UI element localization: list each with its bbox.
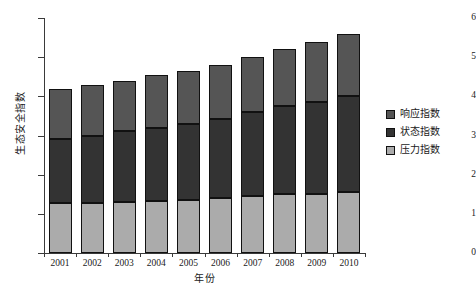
bar-group[interactable] (81, 85, 104, 253)
bar-group[interactable] (305, 42, 328, 254)
y-tick-label: 5 (446, 52, 476, 62)
x-axis-title: 年份 (44, 274, 365, 284)
x-tick-mark (44, 253, 45, 257)
x-tick-label: 2004 (140, 258, 172, 269)
x-tick-label: 2003 (108, 258, 140, 269)
x-tick-mark (333, 253, 334, 257)
bar-segment-response[interactable] (241, 57, 264, 112)
bar-group[interactable] (241, 57, 264, 253)
bar-segment-pressure[interactable] (337, 192, 360, 253)
bar-segment-state[interactable] (81, 136, 104, 203)
y-tick-mark (38, 57, 44, 58)
bar-segment-state[interactable] (113, 131, 136, 202)
bar-segment-state[interactable] (177, 124, 200, 200)
bar-segment-state[interactable] (49, 139, 72, 203)
x-tick-label: 2001 (44, 258, 76, 269)
bar-segment-response[interactable] (209, 65, 232, 119)
bar-segment-state[interactable] (241, 112, 264, 196)
x-tick-mark (172, 253, 173, 257)
stacked-bar-chart: 0123456 20012002200320042005200620072008… (0, 0, 476, 294)
bar-segment-response[interactable] (81, 85, 104, 136)
bar-segment-pressure[interactable] (209, 198, 232, 253)
x-tick-mark (269, 253, 270, 257)
bar-group[interactable] (337, 34, 360, 253)
bar-segment-response[interactable] (177, 71, 200, 124)
bar-group[interactable] (209, 65, 232, 253)
bar-segment-pressure[interactable] (177, 200, 200, 253)
bar-segment-pressure[interactable] (273, 194, 296, 253)
y-tick-label: 1 (446, 209, 476, 219)
y-tick-mark (38, 96, 44, 97)
legend-label: 状态指数 (400, 127, 440, 137)
bar-segment-response[interactable] (49, 89, 72, 140)
bar-segment-pressure[interactable] (49, 203, 72, 253)
x-tick-label: 2005 (172, 258, 204, 269)
bar-group[interactable] (145, 75, 168, 253)
bar-segment-pressure[interactable] (241, 196, 264, 253)
bar-segment-state[interactable] (209, 119, 232, 198)
legend-item[interactable]: 状态指数 (386, 126, 472, 138)
legend-label: 响应指数 (400, 109, 440, 119)
x-tick-mark (108, 253, 109, 257)
bar-segment-state[interactable] (305, 102, 328, 194)
x-tick-mark (140, 253, 141, 257)
legend: 响应指数状态指数压力指数 (386, 108, 472, 162)
bar-segment-state[interactable] (273, 106, 296, 194)
x-tick-mark (365, 253, 366, 257)
x-tick-mark (76, 253, 77, 257)
bar-segment-pressure[interactable] (145, 201, 168, 253)
y-tick-label: 4 (446, 91, 476, 101)
legend-swatch-icon (386, 110, 395, 119)
bar-segment-response[interactable] (305, 42, 328, 103)
x-tick-label: 2007 (237, 258, 269, 269)
y-tick-mark (38, 214, 44, 215)
bar-segment-state[interactable] (337, 96, 360, 192)
bar-segment-pressure[interactable] (305, 194, 328, 253)
x-tick-label: 2010 (333, 258, 365, 269)
bar-segment-response[interactable] (337, 34, 360, 97)
bar-segment-response[interactable] (113, 81, 136, 131)
bar-segment-state[interactable] (145, 128, 168, 202)
x-tick-mark (237, 253, 238, 257)
bar-group[interactable] (177, 71, 200, 253)
bar-segment-response[interactable] (145, 75, 168, 128)
bar-segment-response[interactable] (273, 49, 296, 106)
bar-group[interactable] (273, 49, 296, 253)
y-axis-title: 生态安全指数 (16, 68, 26, 178)
x-tick-label: 2009 (301, 258, 333, 269)
bar-group[interactable] (49, 89, 72, 254)
y-tick-mark (38, 136, 44, 137)
bar-group[interactable] (113, 81, 136, 253)
x-tick-mark (301, 253, 302, 257)
x-tick-label: 2008 (269, 258, 301, 269)
x-tick-label: 2002 (76, 258, 108, 269)
bar-segment-pressure[interactable] (81, 203, 104, 253)
x-tick-mark (205, 253, 206, 257)
y-tick-label: 6 (446, 13, 476, 23)
legend-item[interactable]: 压力指数 (386, 144, 472, 156)
y-tick-mark (38, 175, 44, 176)
y-tick-mark (38, 18, 44, 19)
legend-swatch-icon (386, 128, 395, 137)
y-axis-line (44, 18, 45, 254)
legend-label: 压力指数 (400, 145, 440, 155)
y-tick-label: 2 (446, 170, 476, 180)
x-tick-label: 2006 (205, 258, 237, 269)
y-tick-label: 0 (446, 248, 476, 258)
legend-item[interactable]: 响应指数 (386, 108, 472, 120)
bar-segment-pressure[interactable] (113, 202, 136, 253)
legend-swatch-icon (386, 146, 395, 155)
